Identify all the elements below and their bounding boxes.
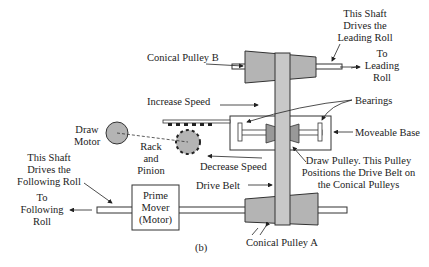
label-to-following-roll: To Following Roll [17,192,67,228]
label-decrease-speed: Decrease Speed [200,161,267,173]
label-drive-belt: Drive Belt [196,180,240,192]
label-leading-shaft: This Shaft Drives the Leading Roll [335,8,395,44]
drive-belt [275,53,290,225]
label-conical-pulley-b: Conical Pulley B [147,52,219,64]
label-prime-mover: Prime Mover (Motor) [132,190,179,226]
label-draw-pulley: Draw Pulley. This Pulley Positions the D… [296,155,421,191]
label-draw-motor: Draw Motor [72,124,102,148]
label-following-shaft: This Shaft Drives the Following Roll [14,152,84,188]
rack [163,120,230,123]
label-rack-and-pinion: Rack and Pinion [136,141,166,177]
label-increase-speed: Increase Speed [147,96,210,108]
figure-caption: (b) [195,242,207,254]
label-bearings: Bearings [355,95,392,107]
bearing-left [238,123,242,141]
label-conical-pulley-a: Conical Pulley A [246,237,318,249]
label-moveable-base: Moveable Base [355,127,420,139]
label-to-leading-roll: To Leading Roll [360,48,404,84]
bearing-right [318,123,322,141]
